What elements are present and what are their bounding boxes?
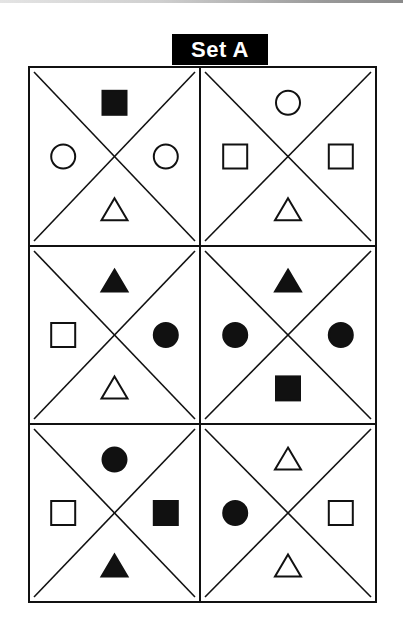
filled-circle-icon <box>223 501 247 525</box>
filled-circle-icon <box>223 323 247 347</box>
filled-triangle-icon <box>102 554 128 576</box>
open-square-icon <box>223 145 247 169</box>
filled-square-icon <box>276 376 300 400</box>
grid-cell-1 <box>34 72 195 241</box>
open-triangle-icon <box>275 198 301 220</box>
filled-triangle-icon <box>275 270 301 292</box>
filled-circle-icon <box>103 448 127 472</box>
open-square-icon <box>329 145 353 169</box>
filled-square-icon <box>103 91 127 115</box>
puzzle-grid <box>0 0 403 632</box>
open-triangle-icon <box>102 376 128 398</box>
grid-cell-3 <box>34 251 195 419</box>
open-square-icon <box>51 501 75 525</box>
open-circle-icon <box>154 145 178 169</box>
open-triangle-icon <box>102 198 128 220</box>
open-circle-icon <box>51 145 75 169</box>
open-triangle-icon <box>275 554 301 576</box>
open-square-icon <box>51 323 75 347</box>
filled-triangle-icon <box>102 270 128 292</box>
grid-cell-2 <box>205 72 371 241</box>
open-square-icon <box>329 501 353 525</box>
filled-circle-icon <box>329 323 353 347</box>
cells-layer <box>34 72 371 597</box>
grid-cell-5 <box>34 429 195 597</box>
grid-cell-6 <box>205 429 371 597</box>
filled-circle-icon <box>154 323 178 347</box>
open-triangle-icon <box>275 448 301 470</box>
filled-square-icon <box>154 501 178 525</box>
grid-cell-4 <box>205 251 371 419</box>
open-circle-icon <box>276 91 300 115</box>
grid-frame <box>29 67 376 602</box>
grid-outer-border <box>29 67 376 602</box>
